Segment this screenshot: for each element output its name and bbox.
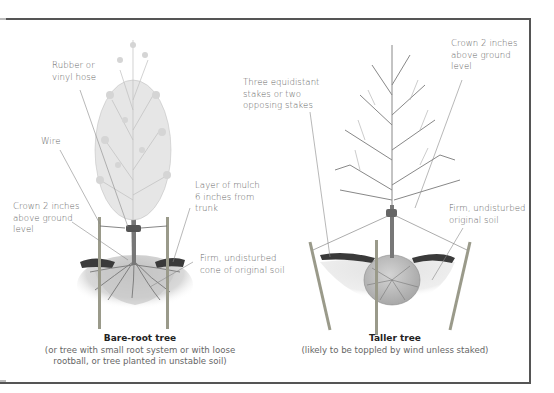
- label-line: level: [451, 61, 517, 73]
- label-wire: Wire: [41, 136, 61, 148]
- label-hose: Rubber or vinyl hose: [52, 60, 96, 83]
- label-crown-right: Crown 2 inches above ground level: [451, 38, 517, 73]
- label-line: Rubber or: [52, 60, 96, 72]
- caption-bare-root: Bare-root tree (or tree with small root …: [40, 333, 240, 368]
- label-line: above ground: [13, 213, 79, 225]
- label-line: Layer of mulch: [195, 180, 260, 192]
- label-line: stakes or two: [243, 89, 320, 101]
- caption-title: Bare-root tree: [40, 333, 240, 345]
- label-stakes: Three equidistant stakes or two opposing…: [243, 77, 320, 112]
- label-line: above ground: [451, 50, 517, 62]
- caption-title: Taller tree: [300, 333, 490, 345]
- label-mulch: Layer of mulch 6 inches from trunk: [195, 180, 260, 215]
- label-line: cone of original soil: [200, 265, 285, 277]
- label-line: level: [13, 224, 79, 236]
- label-soil-left: Firm, undisturbed cone of original soil: [200, 253, 285, 276]
- label-line: Crown 2 inches: [13, 201, 79, 213]
- label-line: Firm, undisturbed: [200, 253, 285, 265]
- label-line: 6 inches from: [195, 192, 260, 204]
- caption-subtitle: (likely to be toppled by wind unless sta…: [300, 345, 490, 357]
- label-line: Wire: [41, 136, 61, 148]
- label-line: Crown 2 inches: [451, 38, 517, 50]
- caption-taller: Taller tree (likely to be toppled by win…: [300, 333, 490, 356]
- bare-root-tree-illustration: [77, 40, 193, 329]
- taller-tree-illustration: [310, 45, 470, 335]
- label-line: trunk: [195, 203, 260, 215]
- label-crown-left: Crown 2 inches above ground level: [13, 201, 79, 236]
- label-line: vinyl hose: [52, 72, 96, 84]
- label-line: opposing stakes: [243, 100, 320, 112]
- label-line: Three equidistant: [243, 77, 320, 89]
- label-line: Firm, undisturbed: [449, 203, 526, 215]
- label-soil-right: Firm, undisturbed original soil: [449, 203, 526, 226]
- caption-subtitle: rootball, or tree planted in unstable so…: [40, 356, 240, 368]
- caption-subtitle: (or tree with small root system or with …: [40, 345, 240, 357]
- label-line: original soil: [449, 215, 526, 227]
